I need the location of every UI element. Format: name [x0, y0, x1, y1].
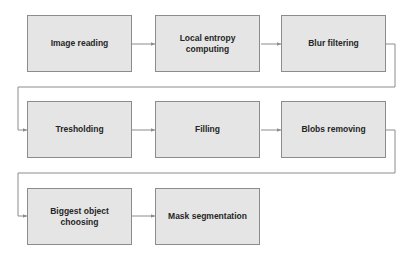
step-label: Blur filtering [308, 38, 359, 49]
step-label: Mask segmentation [168, 211, 247, 222]
step-mask-segmentation: Mask segmentation [155, 188, 260, 245]
step-tresholding: Tresholding [27, 101, 132, 158]
step-local-entropy-computing: Local entropy computing [155, 15, 260, 72]
step-label: Tresholding [55, 124, 103, 135]
step-blur-filtering: Blur filtering [281, 15, 386, 72]
step-biggest-object-choosing: Biggest object choosing [27, 188, 132, 245]
step-label: Blobs removing [301, 124, 365, 135]
step-label: Filling [195, 124, 220, 135]
flowchart-diagram: Image reading Local entropy computing Bl… [0, 0, 408, 256]
step-blobs-removing: Blobs removing [281, 101, 386, 158]
step-filling: Filling [155, 101, 260, 158]
step-label: Biggest object choosing [50, 206, 110, 227]
step-label: Local entropy computing [173, 33, 243, 54]
step-image-reading: Image reading [27, 15, 132, 72]
step-label: Image reading [51, 38, 109, 49]
